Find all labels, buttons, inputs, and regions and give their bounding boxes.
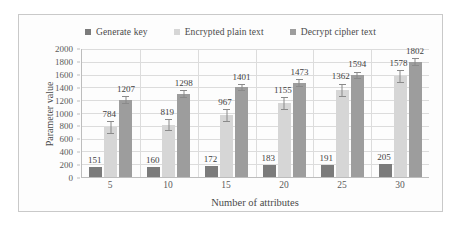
bar-group: 1608191298 — [140, 49, 198, 177]
y-axis-tick-mark — [77, 126, 80, 127]
legend-swatch-icon — [85, 29, 91, 35]
bar-slot: 1207 — [119, 49, 132, 177]
bar — [409, 62, 422, 177]
bar — [394, 76, 407, 177]
x-axis-tick-labels: 51015202530 — [81, 180, 429, 194]
bar-slot: 151 — [89, 49, 102, 177]
bar — [205, 166, 218, 177]
error-bar — [241, 84, 242, 92]
error-bar — [357, 72, 358, 79]
bar-data-label: 172 — [204, 154, 218, 164]
bar-group: 1517841207 — [82, 49, 140, 177]
bar — [336, 90, 349, 177]
y-axis-tick-label: 2000 — [55, 44, 73, 54]
y-axis-tick-mark — [77, 87, 80, 88]
bar — [278, 103, 291, 177]
bar-slot: 1155 — [278, 49, 291, 177]
y-axis-tick-label: 800 — [60, 121, 74, 131]
bar — [321, 165, 334, 177]
bar-data-label: 1473 — [290, 67, 308, 77]
y-axis-tick-mark — [77, 165, 80, 166]
bar-data-label: 967 — [218, 97, 232, 107]
legend-swatch-icon — [174, 29, 180, 35]
y-axis-tick-label: 1600 — [55, 70, 73, 80]
bar — [162, 125, 175, 177]
bar-data-label: 1401 — [233, 72, 251, 82]
bar-data-label: 1802 — [406, 46, 424, 56]
bar — [89, 167, 102, 177]
bar — [119, 100, 132, 177]
bar-data-label: 1207 — [117, 84, 135, 94]
y-axis-tick-label: 1800 — [55, 57, 73, 67]
bar-data-label: 819 — [160, 107, 174, 117]
bar-slot: 160 — [147, 49, 160, 177]
bar-data-label: 160 — [146, 155, 160, 165]
x-axis-tick-label: 25 — [313, 180, 371, 194]
bar-slot: 183 — [263, 49, 276, 177]
bar — [235, 87, 248, 177]
bar-data-label: 1298 — [175, 78, 193, 88]
x-axis-tick-label: 10 — [139, 180, 197, 194]
legend-item: Encrypted plain text — [174, 27, 264, 37]
chart-figure: Generate keyEncrypted plain textDecrypt … — [18, 14, 443, 212]
error-bar — [110, 121, 111, 133]
bar-data-label: 151 — [88, 155, 102, 165]
x-axis-tick-label: 20 — [255, 180, 313, 194]
bar-slot: 172 — [205, 49, 218, 177]
error-bar — [284, 97, 285, 109]
bar — [104, 127, 117, 177]
y-axis-tick-label: 200 — [60, 160, 74, 170]
x-axis-title: Number of attributes — [81, 197, 429, 208]
y-axis-tick-label: 600 — [60, 134, 74, 144]
error-bar — [342, 84, 343, 97]
bar-data-label: 1362 — [332, 71, 350, 81]
y-axis-tick-mark — [77, 152, 80, 153]
bar-slot: 1802 — [409, 49, 422, 177]
bar-group: 19113621594 — [313, 49, 371, 177]
bar — [177, 94, 190, 177]
y-axis-tick-label: 0 — [69, 173, 74, 183]
x-axis-tick-label: 30 — [371, 180, 429, 194]
y-axis-tick-mark — [77, 74, 80, 75]
bar — [379, 164, 392, 177]
y-axis-tick-label: 1400 — [55, 83, 73, 93]
bar — [220, 115, 233, 177]
error-bar — [226, 109, 227, 122]
bar-slot: 1578 — [394, 49, 407, 177]
bar — [147, 167, 160, 177]
bar-data-label: 205 — [377, 152, 391, 162]
y-axis-tick-mark — [77, 100, 80, 101]
x-axis-tick-label: 15 — [197, 180, 255, 194]
error-bar — [415, 58, 416, 66]
bar-slot: 819 — [162, 49, 175, 177]
bar-slot: 205 — [379, 49, 392, 177]
y-axis-tick-label: 1000 — [55, 109, 73, 119]
bar — [293, 83, 306, 177]
bar-data-label: 1155 — [274, 85, 292, 95]
bar-slot: 1362 — [336, 49, 349, 177]
bar-slot: 191 — [321, 49, 334, 177]
bar-data-label: 1594 — [348, 59, 366, 69]
bar — [351, 75, 364, 177]
legend-label: Encrypted plain text — [185, 27, 264, 37]
legend-item: Decrypt cipher text — [290, 27, 376, 37]
error-bar — [125, 96, 126, 104]
error-bar — [299, 79, 300, 87]
bar-group: 20515781802 — [371, 49, 429, 177]
error-bar — [168, 119, 169, 131]
y-axis-tick-mark — [77, 178, 80, 179]
bar-slot: 1401 — [235, 49, 248, 177]
bar — [263, 165, 276, 177]
y-axis-tick-mark — [77, 49, 80, 50]
plot-area: 1517841207160819129817296714011831155147… — [81, 49, 429, 178]
bar-group: 18311551473 — [255, 49, 313, 177]
bar-slot: 1298 — [177, 49, 190, 177]
y-axis-tick-mark — [77, 139, 80, 140]
error-bar — [183, 90, 184, 98]
bar-slot: 967 — [220, 49, 233, 177]
legend-label: Decrypt cipher text — [301, 27, 376, 37]
x-axis-tick-label: 5 — [81, 180, 139, 194]
error-bar — [400, 70, 401, 83]
bar-slot: 1473 — [293, 49, 306, 177]
bar-slot: 1594 — [351, 49, 364, 177]
